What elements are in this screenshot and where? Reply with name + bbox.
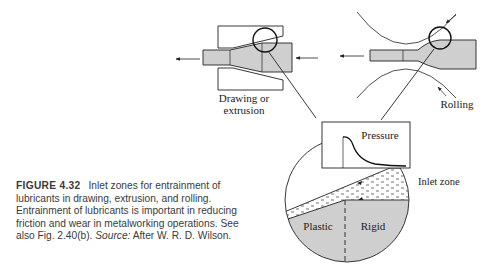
lower-roll xyxy=(357,69,456,98)
pressure-label: Pressure xyxy=(361,129,398,141)
figure-number: FIGURE 4.32 xyxy=(16,180,80,191)
drawing-label-line1: Drawing or xyxy=(219,92,270,104)
source-text: After W. R. D. Wilson. xyxy=(133,230,232,241)
drawing-extrusion-setup: Drawing or extrusion xyxy=(176,26,318,118)
drawn-workpiece xyxy=(203,43,292,72)
drawing-label-line2: extrusion xyxy=(224,104,265,116)
rolling-label: Rolling xyxy=(440,98,474,110)
rolled-strip xyxy=(370,40,476,69)
roll-rotation-arrow-bottom xyxy=(438,87,446,96)
rolling-setup: Rolling xyxy=(340,12,476,120)
roll-rotation-arrow-top xyxy=(446,15,456,23)
plastic-label: Plastic xyxy=(303,220,332,232)
magnified-inlet-zone: Pressure Inlet zone Plastic Rigid xyxy=(270,122,460,270)
upper-roll xyxy=(357,12,456,44)
figure-caption: FIGURE 4.32Inlet zones for entrainment o… xyxy=(16,180,256,243)
rigid-label: Rigid xyxy=(361,220,386,232)
inlet-zone-label: Inlet zone xyxy=(418,176,460,187)
source-label: Source: xyxy=(95,230,130,241)
